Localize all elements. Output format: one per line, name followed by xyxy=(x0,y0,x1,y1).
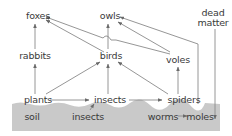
node-rabbits: rabbits xyxy=(19,51,51,61)
node-worms: worms xyxy=(148,112,179,122)
node-birds: birds xyxy=(100,51,122,61)
node-moles: moles xyxy=(186,112,214,122)
node-foxes: foxes xyxy=(26,11,50,21)
edge-birds-foxes xyxy=(46,20,104,52)
node-dead-matter-line2: matter xyxy=(197,18,228,28)
edge-spiders-birds xyxy=(118,62,168,94)
node-insects: insects xyxy=(94,95,126,105)
node-plants: plants xyxy=(24,95,52,105)
node-spiders: spiders xyxy=(168,95,201,105)
node-soil: soil xyxy=(24,112,39,122)
edge-plants-birds xyxy=(46,62,100,94)
node-soil-insects: insects xyxy=(72,112,104,122)
node-owls: owls xyxy=(100,11,120,21)
node-voles: voles xyxy=(166,55,190,65)
